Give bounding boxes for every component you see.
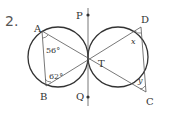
angle-label-x: x <box>131 37 136 46</box>
angle-label-y: y <box>137 76 143 85</box>
label-d: D <box>141 14 149 25</box>
tangent-circles-diagram: A B D C P Q T 56° 62° x y <box>0 0 172 113</box>
label-t: T <box>98 58 105 69</box>
angle-label-b: 62° <box>49 72 63 81</box>
point-q-dot <box>86 95 89 98</box>
point-p-dot <box>86 13 89 16</box>
label-q: Q <box>76 91 84 102</box>
label-a: A <box>33 23 42 34</box>
label-p: P <box>76 10 83 21</box>
label-c: C <box>146 96 154 107</box>
segment-ab <box>42 31 46 86</box>
label-b: B <box>40 91 47 102</box>
angle-arc-a <box>43 35 48 38</box>
angle-label-a: 56° <box>46 46 60 55</box>
